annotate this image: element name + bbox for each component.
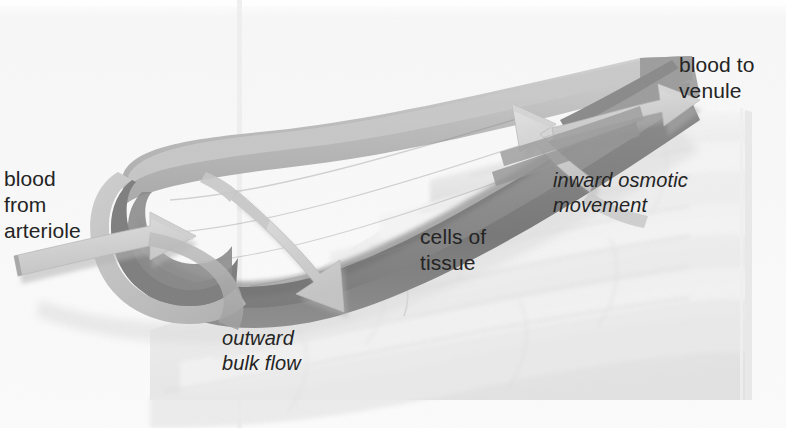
figure-canvas: blood from arteriole blood to venule inw…	[0, 0, 786, 428]
label-outward-bulk-flow: outward bulk flow	[222, 326, 301, 376]
label-blood-from-arteriole: blood from arteriole	[4, 166, 81, 244]
label-inward-osmotic-movement: inward osmotic movement	[553, 168, 688, 218]
label-blood-to-venule: blood to venule	[679, 52, 755, 104]
label-cells-of-tissue: cells of tissue	[420, 224, 486, 276]
